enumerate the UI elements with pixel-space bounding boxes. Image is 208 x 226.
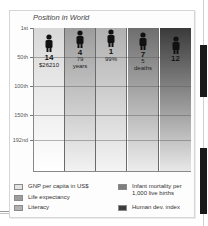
y-label-50th: 50th: [6, 54, 28, 60]
y-label-192nd: 192nd: [6, 137, 28, 143]
legend-swatch: [118, 184, 127, 190]
legend-item-human-dev-index: Human dev. index: [118, 204, 180, 211]
legend-item-gnp: GNP per capita in US$: [14, 183, 89, 190]
legend-label: Infant mortality per 1,000 live births: [132, 183, 182, 197]
legend-label-line2: 1,000 live births: [132, 190, 182, 197]
legend-swatch: [14, 205, 23, 211]
column-life-expectancy: 4 79 years: [65, 28, 96, 171]
legend-item-literacy: Literacy: [14, 204, 49, 211]
column-human-dev-index: 12: [160, 28, 191, 171]
person-icon: [138, 32, 148, 50]
rank-gnp: 14: [34, 54, 64, 62]
y-label-100th: 100th: [6, 83, 28, 89]
person-icon: [171, 36, 181, 54]
legend-item-life-expectancy: Life expectancy: [14, 194, 70, 201]
legend-swatch: [118, 205, 127, 211]
chart-title: Position in World: [33, 13, 89, 22]
value-infant-mortality-1: 5: [128, 58, 158, 65]
legend-swatch: [14, 195, 23, 201]
chart-plot-area: 14 $26210 4 79 years 1 99% 7 5 deaths 12: [33, 28, 191, 172]
person-icon: [75, 30, 85, 48]
legend-swatch: [14, 184, 23, 190]
gridline-192nd: [34, 140, 191, 141]
gridline-100th: [34, 86, 191, 87]
person-icon: [106, 29, 116, 47]
legend-label-line1: Infant mortality per: [132, 183, 182, 190]
column-literacy: 1 99%: [96, 28, 127, 171]
value-gnp: $26210: [34, 62, 64, 69]
y-label-150th: 150th: [6, 112, 28, 118]
legend-label: Life expectancy: [28, 194, 70, 201]
page-edge-dark-bar-lower: [200, 148, 207, 214]
legend-label: Human dev. index: [132, 204, 180, 211]
value-infant-mortality-2: deaths: [128, 65, 158, 72]
column-infant-mortality: 7 5 deaths: [128, 28, 159, 171]
y-label-1st: 1st: [6, 25, 28, 31]
gridline-150th: [34, 115, 191, 116]
gridline-50th: [34, 57, 191, 58]
legend-label: GNP per capita in US$: [28, 183, 89, 190]
legend-label: Literacy: [28, 204, 49, 211]
value-life-expectancy-2: years: [65, 63, 95, 70]
page-edge-dark-bar: [200, 45, 207, 97]
rank-literacy: 1: [96, 48, 126, 56]
person-icon: [44, 34, 54, 52]
legend-item-infant-mortality: Infant mortality per 1,000 live births: [118, 183, 182, 197]
column-gnp: 14 $26210: [34, 28, 65, 171]
